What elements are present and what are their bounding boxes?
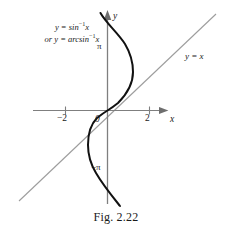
y-tick-label-pi: π bbox=[97, 42, 102, 51]
figure-caption: Fig. 2.22 bbox=[0, 210, 232, 225]
x-axis-label: x bbox=[170, 115, 174, 125]
y-tick-label-negpi: −π bbox=[91, 163, 101, 172]
plot-canvas bbox=[0, 0, 232, 234]
figure-container: y = sin−1x or y = arcsin−1x −2 2 0 π −π … bbox=[0, 0, 232, 234]
x-tick-label-neg2: −2 bbox=[57, 114, 67, 124]
equation-line-1-main: y = sin bbox=[55, 22, 79, 32]
equation-line-2-main: or y = arcsin bbox=[45, 34, 89, 44]
origin-label: 0 bbox=[95, 115, 100, 125]
y-axis-label: y bbox=[113, 12, 117, 22]
equation-line-2-superscript: −1 bbox=[89, 32, 96, 39]
equation-line-1: y = sin−1x bbox=[37, 21, 107, 33]
reference-line-label: y = x bbox=[185, 52, 204, 61]
equation-line-1-variable: x bbox=[85, 22, 89, 32]
x-tick-label-pos2: 2 bbox=[145, 114, 150, 124]
